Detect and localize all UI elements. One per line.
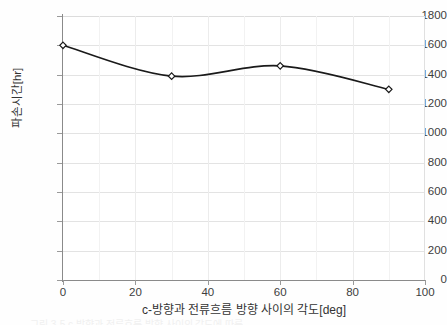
x-tick-mark	[63, 280, 64, 285]
gridline-v-80	[353, 16, 354, 280]
caption-sliver: 그림 3-5 c-방향과 전류흐름 방향 사이의 각도에 따른	[30, 316, 243, 325]
chart-figure: 파손시간[hr] 1800 1600 1400 1200 1000 800 60…	[0, 0, 447, 325]
y-axis-line	[62, 14, 63, 282]
x-tick-mark	[353, 280, 354, 285]
x-tick-mark	[425, 280, 426, 285]
gridline-v-30	[172, 16, 173, 280]
x-tick-mark	[135, 280, 136, 285]
gridline-v-90	[389, 16, 390, 280]
x-tick-label-60: 60	[257, 287, 303, 299]
gridline-v-100	[424, 16, 425, 280]
x-tick-mark	[208, 280, 209, 285]
x-tick-label-20: 20	[112, 287, 158, 299]
gridline-v-10	[99, 16, 100, 280]
x-tick-label-40: 40	[185, 287, 231, 299]
x-tick-mark	[280, 280, 281, 285]
gridline-v-40	[208, 16, 209, 280]
gridline-v-20	[135, 16, 136, 280]
x-tick-label-100: 100	[402, 287, 447, 299]
plot-area	[63, 16, 425, 280]
x-tick-label-0: 0	[40, 287, 86, 299]
x-axis-title: c-방향과 전류흐름 방향 사이의 각도[deg]	[63, 300, 425, 317]
x-tick-label-80: 80	[330, 287, 376, 299]
gridline-v-60	[280, 16, 281, 280]
gridline-v-70	[316, 16, 317, 280]
gridline-v-50	[244, 16, 245, 280]
x-axis-line	[62, 280, 426, 281]
y-axis-title: 파손시간[hr]	[8, 38, 24, 158]
